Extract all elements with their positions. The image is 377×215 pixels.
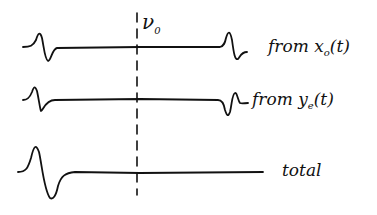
label-text: total [282, 160, 321, 180]
label-suffix: (t) [314, 89, 334, 109]
nu-symbol: ν [142, 10, 154, 34]
label-var: x [314, 36, 324, 56]
label-total: total [282, 160, 321, 180]
label-prefix: from [252, 89, 298, 109]
trace-ye [23, 87, 248, 115]
trace-x0 [23, 33, 247, 61]
label-from-x0: from xo(t) [268, 36, 350, 58]
nu-subscript: 0 [154, 25, 160, 36]
label-suffix: (t) [330, 36, 350, 56]
label-prefix: from [268, 36, 314, 56]
label-from-ye: from ye(t) [252, 89, 334, 111]
trace-total [18, 147, 263, 199]
label-var: y [298, 89, 308, 109]
nu0-label: ν0 [142, 10, 161, 36]
